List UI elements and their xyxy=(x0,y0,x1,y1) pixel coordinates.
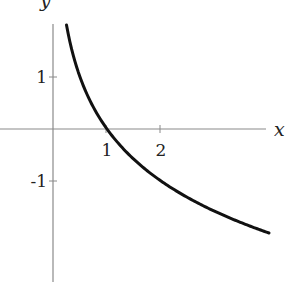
y-axis-label: y xyxy=(39,0,51,11)
x-tick-label-2: 2 xyxy=(156,140,167,160)
x-axis-label: x xyxy=(274,118,285,140)
y-tick-label-1: 1 xyxy=(36,67,47,87)
y-tick-label-neg1: -1 xyxy=(30,171,47,191)
x-tick-label-1: 1 xyxy=(102,140,113,160)
function-graph: y x 1 2 1 -1 xyxy=(0,0,286,282)
